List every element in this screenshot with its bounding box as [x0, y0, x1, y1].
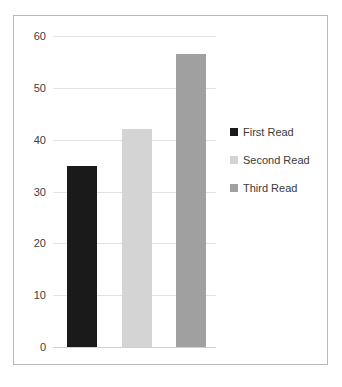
legend-swatch-icon	[230, 184, 238, 192]
legend-swatch-icon	[230, 156, 238, 164]
bar-third-read	[176, 54, 206, 347]
bar-first-read	[67, 166, 97, 347]
y-axis-tick-label: 40	[34, 134, 46, 145]
y-axis-tick-label: 10	[34, 290, 46, 301]
legend-item[interactable]: First Read	[230, 118, 326, 146]
legend-item-label: Second Read	[243, 155, 310, 166]
y-axis-tick-label: 0	[40, 342, 46, 353]
legend-item-label: First Read	[243, 127, 294, 138]
bar-chart-figure: 0102030405060 First ReadSecond ReadThird…	[13, 15, 328, 365]
bar-second-read	[122, 129, 152, 347]
legend-item[interactable]: Third Read	[230, 174, 326, 202]
legend-item-label: Third Read	[243, 183, 297, 194]
legend-item[interactable]: Second Read	[230, 146, 326, 174]
y-axis-tick-label: 30	[34, 186, 46, 197]
y-axis-tick-label: 60	[34, 31, 46, 42]
y-axis-tick-label: 20	[34, 238, 46, 249]
legend-swatch-icon	[230, 128, 238, 136]
gridline-0: 0	[53, 347, 216, 348]
plot-area: 0102030405060	[53, 36, 216, 347]
y-axis-tick-label: 50	[34, 82, 46, 93]
bars-group	[53, 36, 216, 347]
chart-legend: First ReadSecond ReadThird Read	[230, 118, 326, 202]
